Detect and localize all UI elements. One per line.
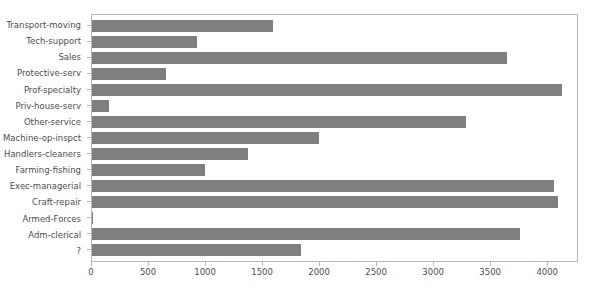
bar[interactable] <box>92 148 248 160</box>
bar-row <box>92 20 577 32</box>
x-axis-tick-label: 1000 <box>194 267 216 277</box>
bar[interactable] <box>92 212 93 224</box>
y-axis-tick-mark <box>87 89 91 90</box>
y-tick-text: Protective-serv <box>17 67 81 79</box>
x-axis-tick-mark <box>376 262 377 266</box>
x-axis-tick-label: 1500 <box>251 267 273 277</box>
y-axis-tick-label: Sales <box>0 51 86 63</box>
bar-row <box>92 148 577 160</box>
x-axis-tick-mark <box>205 262 206 266</box>
y-tick-text: ? <box>76 245 81 257</box>
x-axis-tick-mark <box>547 262 548 266</box>
y-tick-text: Other-service <box>24 116 81 128</box>
bar-row <box>92 84 577 96</box>
plot-area <box>91 14 578 262</box>
y-axis-tick-label: Exec-managerial <box>0 180 86 192</box>
y-tick-text: Transport-moving <box>6 19 81 31</box>
bar-row <box>92 228 577 240</box>
bar[interactable] <box>92 164 205 176</box>
x-axis-tick-mark <box>319 262 320 266</box>
x-axis-tick-label: 4000 <box>536 267 558 277</box>
y-axis-tick-label: Other-service <box>0 116 86 128</box>
bar[interactable] <box>92 180 554 192</box>
y-tick-text: Exec-managerial <box>10 180 81 192</box>
bar[interactable] <box>92 196 558 208</box>
y-tick-text: Tech-support <box>26 35 81 47</box>
bar-row <box>92 52 577 64</box>
y-axis-tick-label: Machine-op-inspct <box>0 132 86 144</box>
bar[interactable] <box>92 132 319 144</box>
bar-row <box>92 68 577 80</box>
y-axis-tick-mark <box>87 153 91 154</box>
bar-chart-figure: Transport-movingTech-supportSalesProtect… <box>0 0 597 290</box>
bar[interactable] <box>92 52 507 64</box>
y-axis-tick-label: Farming-fishing <box>0 164 86 176</box>
x-axis-tick-label: 2000 <box>308 267 330 277</box>
y-tick-text: Handlers-cleaners <box>4 148 81 160</box>
y-tick-text: Armed-Forces <box>22 213 81 225</box>
y-axis-tick-label: Priv-house-serv <box>0 100 86 112</box>
y-tick-text: Craft-repair <box>32 196 81 208</box>
bar[interactable] <box>92 228 520 240</box>
x-axis-tick-label: 500 <box>140 267 156 277</box>
x-axis-tick-mark <box>148 262 149 266</box>
y-axis-tick-label: Armed-Forces <box>0 213 86 225</box>
bar-row <box>92 100 577 112</box>
y-axis-tick-mark <box>87 41 91 42</box>
bar-row <box>92 132 577 144</box>
y-axis-tick-label: Handlers-cleaners <box>0 148 86 160</box>
y-axis-tick-mark <box>87 121 91 122</box>
bar-row <box>92 36 577 48</box>
y-axis-tick-label: Craft-repair <box>0 196 86 208</box>
bar[interactable] <box>92 20 273 32</box>
x-axis-tick-mark <box>490 262 491 266</box>
y-axis-tick-label: Tech-support <box>0 35 86 47</box>
y-axis-tick-label: ? <box>0 245 86 257</box>
y-axis-tick-label: Adm-clerical <box>0 229 86 241</box>
bar-row <box>92 180 577 192</box>
x-axis-tick-mark <box>91 262 92 266</box>
x-axis-tick-label: 2500 <box>365 267 387 277</box>
y-tick-text: Sales <box>58 51 81 63</box>
bar[interactable] <box>92 244 301 256</box>
y-axis-tick-mark <box>87 57 91 58</box>
y-axis-tick-mark <box>87 201 91 202</box>
y-tick-text: Priv-house-serv <box>15 100 81 112</box>
y-axis-tick-mark <box>87 169 91 170</box>
x-axis-tick-label: 3500 <box>479 267 501 277</box>
bar[interactable] <box>92 100 109 112</box>
x-axis-tick-mark <box>262 262 263 266</box>
y-tick-text: Farming-fishing <box>16 164 81 176</box>
bar-row <box>92 196 577 208</box>
y-axis-tick-mark <box>87 249 91 250</box>
y-axis-tick-mark <box>87 233 91 234</box>
y-axis-tick-mark <box>87 105 91 106</box>
bar-row <box>92 244 577 256</box>
bar-row <box>92 116 577 128</box>
y-axis-tick-label: Transport-moving <box>0 19 86 31</box>
bar[interactable] <box>92 116 466 128</box>
bar[interactable] <box>92 68 166 80</box>
bar-row <box>92 212 577 224</box>
bar[interactable] <box>92 36 197 48</box>
y-axis-tick-label: Protective-serv <box>0 67 86 79</box>
x-axis-tick-label: 3000 <box>422 267 444 277</box>
y-axis-tick-mark <box>87 217 91 218</box>
y-axis-tick-labels: Transport-movingTech-supportSalesProtect… <box>0 14 86 262</box>
x-axis-tick-mark <box>433 262 434 266</box>
y-tick-text: Adm-clerical <box>28 229 81 241</box>
y-axis-tick-mark <box>87 185 91 186</box>
x-axis-tick-label: 0 <box>88 267 93 277</box>
bar-row <box>92 164 577 176</box>
bars-layer <box>92 15 577 261</box>
y-axis-tick-mark <box>87 73 91 74</box>
bar[interactable] <box>92 84 562 96</box>
y-axis-tick-mark <box>87 137 91 138</box>
y-tick-text: Prof-specialty <box>24 84 81 96</box>
y-axis-tick-mark <box>87 25 91 26</box>
y-tick-text: Machine-op-inspct <box>3 132 81 144</box>
y-axis-tick-label: Prof-specialty <box>0 84 86 96</box>
